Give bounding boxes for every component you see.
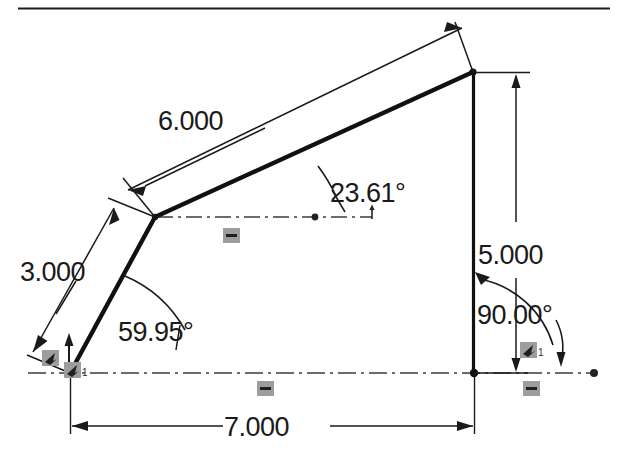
dim-7000-label[interactable]: 7.000 (224, 412, 289, 442)
dim-angle-90-label[interactable]: 90.00° (477, 300, 552, 330)
fix-icon-badge-number: 1 (538, 347, 544, 358)
constraint-horizontal-base-left[interactable] (257, 381, 274, 396)
constraint-horizontal-mid[interactable] (223, 228, 240, 243)
cad-drawing-canvas: 6.000 3.000 5.000 (0, 0, 619, 458)
cad-sketch-viewport: 6.000 3.000 5.000 (0, 0, 619, 458)
centerline-mid-endpoint-dot (312, 214, 319, 221)
dim-6000-label[interactable]: 6.000 (158, 106, 223, 136)
constraint-horizontal-base-right[interactable] (523, 381, 540, 396)
fix-icon-badge-number: 1 (82, 367, 88, 378)
centerline-base-endpoint-dot (590, 369, 598, 377)
dim-5000-label[interactable]: 5.000 (478, 240, 543, 270)
dim-angle-23-label[interactable]: 23.61° (330, 178, 405, 208)
dim-angle-59-label[interactable]: 59.95° (118, 317, 193, 347)
constraint-fixed-origin-left[interactable] (42, 350, 59, 366)
dim-3000-label[interactable]: 3.000 (20, 257, 85, 287)
